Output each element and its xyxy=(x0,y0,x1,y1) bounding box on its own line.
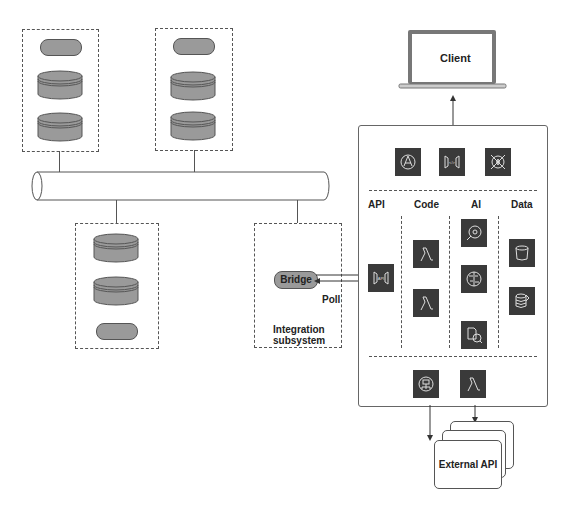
divider xyxy=(369,356,537,357)
shield-fire-icon xyxy=(485,148,511,176)
subsystem-box-3 xyxy=(75,223,159,349)
notification-icon xyxy=(413,370,439,398)
database-icon xyxy=(37,70,83,100)
column-label-code: Code xyxy=(414,199,439,210)
integration-label-2: subsystem xyxy=(273,335,325,346)
database-icon xyxy=(37,112,83,142)
bridge-pill: Bridge xyxy=(274,271,318,289)
database-icon xyxy=(93,276,139,306)
integration-label-1: Integration xyxy=(273,324,325,335)
external-api-card: External API xyxy=(434,440,502,489)
connector xyxy=(194,150,195,172)
subsystem-box-2 xyxy=(155,28,233,151)
column-label-data: Data xyxy=(511,199,533,210)
bucket-icon xyxy=(509,239,535,267)
arrow-up xyxy=(448,95,458,125)
subsystem-box-1 xyxy=(22,29,99,152)
database-icon xyxy=(170,111,216,141)
api-gateway-icon: API xyxy=(368,264,394,292)
arrow-down xyxy=(425,405,435,441)
document-analysis-icon xyxy=(461,321,487,349)
database-icon xyxy=(170,71,216,101)
globe-network-icon xyxy=(395,148,421,176)
lambda-icon xyxy=(413,240,439,268)
database-icon xyxy=(509,287,535,315)
message-bus xyxy=(30,170,330,202)
lambda-icon xyxy=(460,370,486,398)
connector xyxy=(59,151,60,172)
svg-text:</>: </> xyxy=(449,160,455,165)
bridge-arrows xyxy=(314,270,364,286)
service-pill xyxy=(173,38,215,55)
bridge-label: Bridge xyxy=(280,274,312,285)
brain-icon xyxy=(461,265,487,293)
api-gateway-icon: </> xyxy=(439,148,465,176)
divider xyxy=(369,190,537,191)
cloud-panel: </> API Code AI Data API xyxy=(358,125,548,407)
database-icon xyxy=(93,233,139,263)
client-label: Client xyxy=(440,52,471,64)
external-api-label: External API xyxy=(439,459,498,470)
column-divider xyxy=(449,216,450,348)
column-divider xyxy=(401,216,402,348)
svg-text:API: API xyxy=(378,276,384,281)
column-label-ai: AI xyxy=(471,199,481,210)
search-analytics-icon xyxy=(461,219,487,247)
lambda-icon xyxy=(413,289,439,317)
poll-label: Poll xyxy=(322,294,340,305)
column-label-api: API xyxy=(368,199,385,210)
connector xyxy=(116,200,117,223)
connector xyxy=(297,200,298,223)
service-pill xyxy=(96,323,138,340)
service-pill xyxy=(40,39,82,56)
column-divider xyxy=(498,216,499,348)
